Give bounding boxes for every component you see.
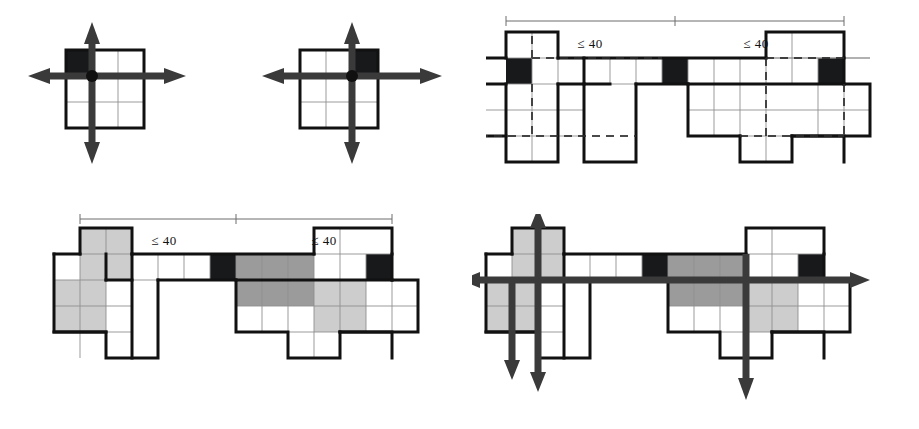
cell-black xyxy=(506,58,532,84)
dimension-label-right: ≤ 40 xyxy=(743,36,768,51)
arrow-head-down xyxy=(84,142,100,164)
arrow-head-left xyxy=(262,68,284,84)
figure-sheet: ≤ 40 ≤ 40 xyxy=(0,0,919,429)
dimension-label-left: ≤ 40 xyxy=(151,233,176,248)
arrow-head-up xyxy=(344,22,360,44)
axis-arrows xyxy=(262,22,442,164)
axis-hub-dot xyxy=(86,70,98,82)
cell-black xyxy=(818,58,844,84)
arrow-head-left xyxy=(28,68,50,84)
panel-bottom-left: ≤ 40 ≤ 40 xyxy=(40,214,460,429)
cell-black xyxy=(662,58,688,84)
axis-arrows xyxy=(28,22,186,164)
grid-lines xyxy=(486,32,870,162)
dimension-label-right: ≤ 40 xyxy=(311,233,336,248)
dimension-line xyxy=(506,16,844,26)
arrow-head-up xyxy=(84,22,100,44)
panel-top-left xyxy=(20,14,240,204)
dimension-label-left: ≤ 40 xyxy=(577,36,602,51)
panel-top-mid xyxy=(254,14,474,204)
arrow-head-up xyxy=(530,214,546,228)
axis-hub-dot xyxy=(346,70,358,82)
panel-top-right: ≤ 40 ≤ 40 xyxy=(486,12,919,210)
arrow-head-down xyxy=(344,142,360,164)
arrow-head-right xyxy=(420,68,442,84)
net-outline xyxy=(486,32,870,162)
arrow-head-down xyxy=(530,372,546,392)
arrow-head-left xyxy=(472,272,480,288)
arrow-head-down xyxy=(504,360,520,380)
arrow-head-right xyxy=(164,68,186,84)
arrow-head-down xyxy=(738,378,754,400)
arrow-head-right xyxy=(850,272,870,288)
dimension-line xyxy=(80,214,392,224)
panel-bottom-right xyxy=(472,214,919,429)
